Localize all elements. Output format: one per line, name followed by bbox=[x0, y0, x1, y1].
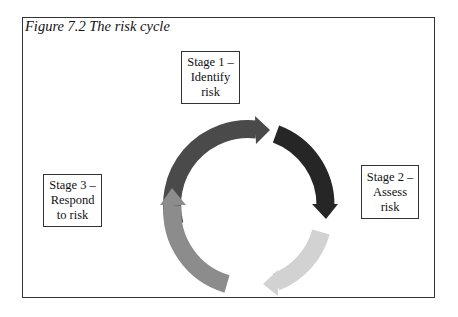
arrow-respond-icon bbox=[160, 188, 227, 284]
arrow-light-icon bbox=[263, 232, 321, 296]
risk-cycle-diagram bbox=[0, 0, 458, 317]
stage-3-box: Stage 3 – Respond to risk bbox=[43, 174, 102, 227]
stage-1-box: Stage 1 – Identify risk bbox=[181, 51, 240, 104]
stage-2-box: Stage 2 – Assess risk bbox=[361, 165, 419, 219]
arrow-identify-icon bbox=[172, 116, 270, 225]
arrow-assess-icon bbox=[276, 134, 338, 219]
